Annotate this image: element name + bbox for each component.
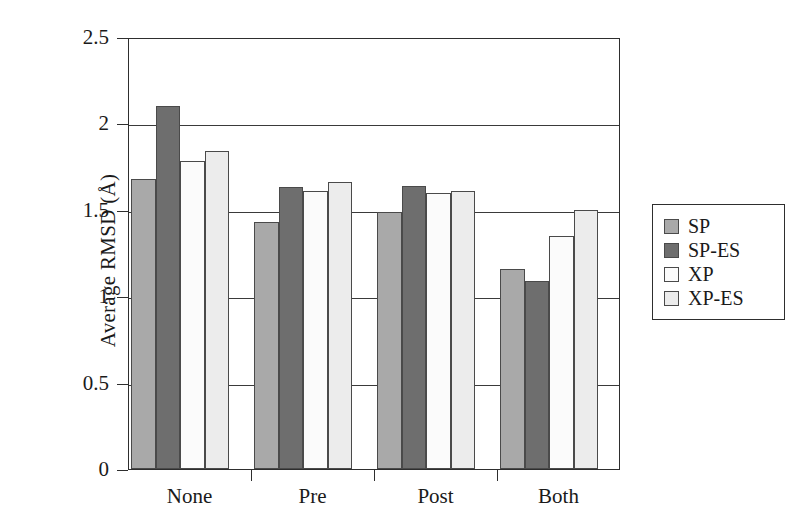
legend-swatch-xp bbox=[664, 267, 679, 282]
y-tick-label-0.5: 0.5 bbox=[0, 373, 109, 394]
legend-item-sp-es: SP-ES bbox=[664, 238, 774, 262]
bar-none-sp-es bbox=[156, 106, 181, 469]
bar-both-xp-es bbox=[574, 210, 599, 469]
legend-swatch-xp-es bbox=[664, 291, 679, 306]
bar-post-xp-es bbox=[451, 191, 476, 469]
bar-none-xp bbox=[180, 161, 205, 469]
bar-both-sp bbox=[500, 269, 525, 469]
legend-label-sp: SP bbox=[688, 216, 710, 236]
y-tick-2.5 bbox=[117, 38, 128, 39]
y-tick-0 bbox=[117, 470, 128, 471]
bar-post-xp bbox=[426, 193, 451, 469]
bar-pre-xp-es bbox=[328, 182, 353, 469]
legend-item-sp: SP bbox=[664, 214, 774, 238]
legend-swatch-sp bbox=[664, 219, 679, 234]
y-tick-1.5 bbox=[117, 211, 128, 212]
x-axis-label-both: Both bbox=[489, 486, 629, 507]
bar-both-sp-es bbox=[525, 281, 550, 469]
bar-pre-sp-es bbox=[279, 187, 304, 469]
x-tick-1 bbox=[251, 470, 252, 481]
y-tick-label-2.5: 2.5 bbox=[0, 27, 109, 48]
bar-post-sp-es bbox=[402, 186, 427, 469]
x-axis-label-none: None bbox=[120, 486, 260, 507]
x-tick-3 bbox=[497, 470, 498, 481]
x-axis-label-post: Post bbox=[366, 486, 506, 507]
bar-none-sp bbox=[131, 179, 156, 469]
plot-area bbox=[128, 38, 620, 470]
bar-chart-figure: Average RMSD (Å) 00.511.522.5 NonePrePos… bbox=[0, 0, 803, 532]
bar-post-sp bbox=[377, 212, 402, 469]
bar-pre-sp bbox=[254, 222, 279, 469]
y-tick-label-1: 1 bbox=[0, 286, 109, 307]
gridline-2 bbox=[129, 125, 619, 126]
bar-none-xp-es bbox=[205, 151, 230, 469]
bar-pre-xp bbox=[303, 191, 328, 469]
y-tick-2 bbox=[117, 124, 128, 125]
legend-item-xp: XP bbox=[664, 262, 774, 286]
y-tick-1 bbox=[117, 297, 128, 298]
y-tick-label-2: 2 bbox=[0, 113, 109, 134]
legend-swatch-sp-es bbox=[664, 243, 679, 258]
legend-label-sp-es: SP-ES bbox=[688, 240, 740, 260]
legend-item-xp-es: XP-ES bbox=[664, 286, 774, 310]
bar-both-xp bbox=[549, 236, 574, 469]
y-tick-label-0: 0 bbox=[0, 459, 109, 480]
x-tick-2 bbox=[374, 470, 375, 481]
legend-label-xp-es: XP-ES bbox=[688, 288, 744, 308]
y-tick-0.5 bbox=[117, 384, 128, 385]
legend: SPSP-ESXPXP-ES bbox=[652, 204, 785, 320]
x-axis-label-pre: Pre bbox=[243, 486, 383, 507]
legend-label-xp: XP bbox=[688, 264, 714, 284]
y-tick-label-1.5: 1.5 bbox=[0, 200, 109, 221]
